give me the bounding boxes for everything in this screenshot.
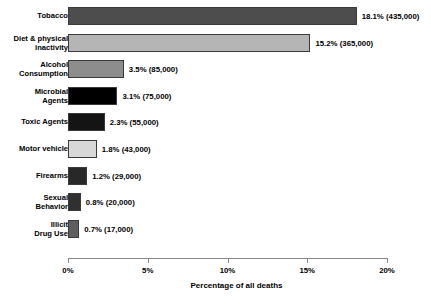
bar-row: Motor vehicle1.8% (43,000) (0, 139, 431, 159)
bar (68, 193, 81, 211)
bar-row: Diet & physicalinactivity15.2% (365,000) (0, 33, 431, 53)
bar-row: SexualBehavior0.8% (20,000) (0, 192, 431, 212)
category-label: Tobacco (0, 11, 68, 20)
bar-row: Tobacco18.1% (435,000) (0, 6, 431, 26)
x-axis-tick (307, 258, 308, 263)
plot-area: Tobacco18.1% (435,000)Diet & physicalina… (0, 0, 431, 306)
bar (68, 220, 79, 238)
x-axis-tick-label: 0% (62, 266, 73, 275)
bar (68, 140, 97, 158)
category-label: MicrobialAgents (0, 87, 68, 105)
bar-row: IllicitDrug Use0.7% (17,000) (0, 219, 431, 239)
category-label: Firearms (0, 171, 68, 180)
category-label: Diet & physicalinactivity (0, 33, 68, 51)
x-axis-tick-label: 5% (142, 266, 153, 275)
bar-value-label: 0.8% (20,000) (86, 198, 135, 207)
bar-row: AlcoholConsumption3.5% (85,000) (0, 59, 431, 79)
bar-value-label: 1.2% (29,000) (92, 171, 141, 180)
bar (68, 113, 105, 131)
category-label: Toxic Agents (0, 118, 68, 127)
bar (68, 167, 87, 185)
category-label: AlcoholConsumption (0, 60, 68, 78)
bar (68, 34, 310, 52)
x-axis-tick (148, 258, 149, 263)
bar-value-label: 18.1% (435,000) (362, 12, 420, 21)
bar-row: Firearms1.2% (29,000) (0, 166, 431, 186)
x-axis-tick-label: 15% (299, 266, 315, 275)
bar (68, 60, 124, 78)
x-axis-tick-label: 10% (220, 266, 236, 275)
bar-value-label: 3.5% (85,000) (129, 65, 178, 74)
bar-value-label: 3.1% (75,000) (122, 91, 171, 100)
bar-value-label: 1.8% (43,000) (102, 145, 151, 154)
x-axis-tick (228, 258, 229, 263)
category-label: IllicitDrug Use (0, 220, 68, 238)
x-axis-tick-label: 20% (379, 266, 395, 275)
category-label: SexualBehavior (0, 193, 68, 211)
bar-row: Toxic Agents2.3% (55,000) (0, 112, 431, 132)
bar (68, 7, 357, 25)
bar-row: MicrobialAgents3.1% (75,000) (0, 86, 431, 106)
x-axis-tick (68, 258, 69, 263)
bar-value-label: 0.7% (17,000) (84, 224, 133, 233)
bar-value-label: 15.2% (365,000) (315, 38, 373, 47)
bar (68, 87, 117, 105)
bar-value-label: 2.3% (55,000) (110, 118, 159, 127)
x-axis-title: Percentage of all deaths (0, 281, 431, 290)
x-axis-tick (387, 258, 388, 263)
x-axis-title-label: Percentage of all deaths (190, 281, 282, 290)
category-label: Motor vehicle (0, 144, 68, 153)
bar-chart: Tobacco18.1% (435,000)Diet & physicalina… (0, 0, 431, 306)
